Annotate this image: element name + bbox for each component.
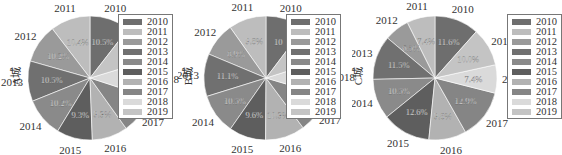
slice-category-label: 2012 <box>376 14 398 26</box>
slice-category-label: 2017 <box>486 117 509 129</box>
pie-panel-a: A城 10.5%201010.4%201110.2%201210.5%20131… <box>0 0 180 155</box>
slice-category-label: 2014 <box>20 120 43 132</box>
slice-category-label: 2010 <box>280 2 303 14</box>
legend-swatch <box>123 109 142 115</box>
legend-swatch <box>512 89 531 95</box>
slice-percent-label: 10.2% <box>50 98 72 108</box>
legend-item-2019: 2019 <box>291 107 336 117</box>
slice-category-label: 2011 <box>232 1 254 13</box>
legend: 2010201120122013201420152016201720182019 <box>286 14 341 119</box>
legend-label: 2019 <box>147 107 168 117</box>
slice-percent-label: 8.9% <box>227 49 245 59</box>
legend-swatch <box>291 39 310 45</box>
slice-percent-label: 7.4% <box>465 74 483 84</box>
legend-swatch <box>291 49 310 55</box>
slice-percent-label: 9.3% <box>71 110 89 120</box>
legend-swatch <box>512 109 531 115</box>
slice-category-label: 2014 <box>352 97 373 109</box>
legend-label: 2019 <box>536 107 557 117</box>
legend-swatch <box>512 59 531 65</box>
slice-percent-label: 11.6% <box>438 37 460 47</box>
slice-percent-label: 9.8% <box>245 36 263 46</box>
slice-percent-label: 10.5% <box>91 37 113 47</box>
legend-swatch <box>291 99 310 105</box>
pie-panel-b: B城 1020109.8%20118.9%201211.1%201310.5%2… <box>178 0 358 155</box>
legend-swatch <box>123 79 142 85</box>
legend-swatch <box>291 109 310 115</box>
legend-swatch <box>512 19 531 25</box>
slice-category-label: 2011 <box>54 2 76 14</box>
legend-swatch <box>512 49 531 55</box>
slice-category-label: 2013 <box>352 47 373 59</box>
legend-swatch <box>291 69 310 75</box>
slice-category-label: 2012 <box>14 30 36 42</box>
slice-category-label: 2016 <box>440 144 463 155</box>
slice-percent-label: 10.2% <box>47 51 69 61</box>
legend-swatch <box>123 59 142 65</box>
slice-category-label: 2015 <box>59 144 82 155</box>
legend-swatch <box>512 69 531 75</box>
slice-percent-label: 10.0% <box>457 54 479 64</box>
legend-swatch <box>291 59 310 65</box>
legend-swatch <box>123 49 142 55</box>
slice-category-label: 2010 <box>452 3 475 15</box>
slice-percent-label: 10.4% <box>67 37 89 47</box>
legend-swatch <box>123 69 142 75</box>
legend-swatch <box>512 79 531 85</box>
legend-item-2019: 2019 <box>512 107 557 117</box>
legend-swatch <box>123 89 142 95</box>
slice-percent-label: 11.1% <box>217 71 239 81</box>
legend-swatch <box>512 99 531 105</box>
slice-percent-label: 12.9% <box>455 96 477 106</box>
legend: 2010201120122013201420152016201720182019 <box>507 14 562 119</box>
slice-category-label: 2014 <box>192 116 215 128</box>
pie-panel-c: C城 11.6%20107.4%20116.5%201211.5%201310.… <box>352 0 562 155</box>
legend: 2010201120122013201420152016201720182019 <box>118 14 173 119</box>
slice-percent-label: 9.3% <box>94 109 112 119</box>
slice-percent-label: 6.5% <box>402 43 420 53</box>
legend-swatch <box>123 29 142 35</box>
slice-percent-label: 10.5% <box>41 75 63 85</box>
legend-swatch <box>512 29 531 35</box>
legend-swatch <box>123 99 142 105</box>
legend-swatch <box>512 39 531 45</box>
legend-swatch <box>123 19 142 25</box>
slice-category-label: 2016 <box>104 142 127 154</box>
slice-category-label: 2016 <box>279 142 302 154</box>
slice-percent-label: 9.8% <box>434 111 452 121</box>
legend-swatch <box>291 79 310 85</box>
slice-category-label: 2015 <box>231 143 254 155</box>
legend-swatch <box>291 19 310 25</box>
legend-swatch <box>123 39 142 45</box>
slice-category-label: 2011 <box>406 0 428 12</box>
slice-category-label: 2015 <box>387 137 410 149</box>
slice-category-label: 2013 <box>178 69 200 81</box>
slice-percent-label: 10.5% <box>224 96 246 106</box>
slice-category-label: 2013 <box>1 76 24 88</box>
slice-percent-label: 10.5% <box>388 86 410 96</box>
legend-item-2019: 2019 <box>123 107 168 117</box>
slice-percent-label: 9.6% <box>245 110 263 120</box>
slice-percent-label: 10 <box>274 37 283 47</box>
legend-swatch <box>291 29 310 35</box>
slice-category-label: 2012 <box>194 26 216 38</box>
legend-swatch <box>291 89 310 95</box>
legend-label: 2019 <box>315 107 336 117</box>
slice-percent-label: 11.5% <box>388 60 410 70</box>
slice-category-label: 2010 <box>104 2 127 14</box>
slice-percent-label: 12.6% <box>406 107 428 117</box>
